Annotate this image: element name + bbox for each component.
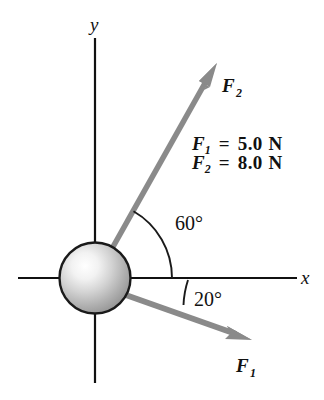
force-diagram-figure: x y F 2 F 1 60° [0, 0, 324, 400]
magnitude-2-var: F [191, 152, 205, 173]
magnitude-2-sub: 2 [204, 162, 211, 176]
diagram-canvas: x y F 2 F 1 60° [0, 0, 324, 400]
angle-60-label: 60° [175, 212, 203, 234]
vector-f2-subscript: 2 [235, 86, 242, 100]
angle-20-arc [184, 280, 189, 305]
x-axis-label: x [300, 267, 310, 288]
sphere-body [60, 243, 131, 314]
y-axis-label: y [88, 14, 99, 35]
magnitude-1-sub: 1 [205, 143, 211, 157]
vector-f2-label: F [221, 75, 235, 96]
vector-f1-label: F [235, 355, 249, 376]
angle-20-group: 20° [184, 280, 223, 310]
magnitudes-block: F1=5.0N F2=8.0N [191, 133, 283, 176]
magnitude-2-equals: = [219, 152, 230, 173]
magnitude-1-var: F [191, 133, 205, 154]
angle-20-label: 20° [194, 288, 222, 310]
sphere-circle [60, 243, 131, 314]
axes-group: x y [18, 14, 310, 383]
angle-60-arc [134, 211, 173, 278]
magnitude-2-value: 8.0 [238, 152, 263, 173]
vector-f1-group: F 1 [123, 294, 256, 380]
magnitude-1-equals: = [219, 133, 230, 154]
magnitude-1-unit: N [268, 133, 282, 154]
vector-f1-subscript: 1 [250, 366, 256, 380]
magnitude-1-value: 5.0 [238, 133, 263, 154]
magnitude-2-unit: N [268, 152, 282, 173]
angle-60-group: 60° [134, 211, 204, 278]
